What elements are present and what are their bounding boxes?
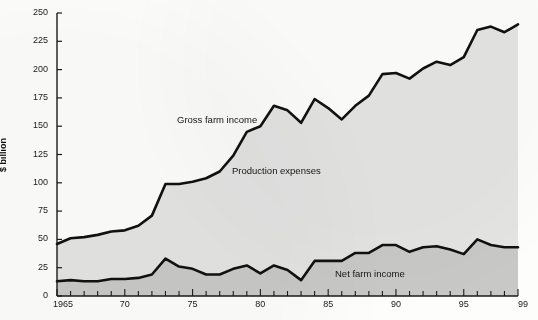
y-tick-label: 25: [0, 262, 48, 272]
y-tick-label: 0: [0, 290, 48, 300]
y-tick-label: 150: [0, 120, 48, 130]
y-tick-label: 200: [0, 64, 48, 74]
y-tick-label: 250: [0, 7, 48, 17]
y-tick-label: 175: [0, 92, 48, 102]
y-tick-label: 75: [0, 205, 48, 215]
y-tick-label: 125: [0, 149, 48, 159]
x-tick-label: 85: [308, 299, 348, 309]
annotation-expenses: Production expenses: [232, 165, 321, 176]
x-tick-label: 75: [173, 299, 213, 309]
farm-income-chart: $ billion 0255075100125150175200225250 1…: [0, 0, 538, 320]
x-tick-label: 70: [105, 299, 145, 309]
y-tick-label: 100: [0, 177, 48, 187]
x-tick-label: 80: [240, 299, 280, 309]
y-tick-label: 50: [0, 233, 48, 243]
chart-plot-area: [0, 0, 538, 320]
x-tick-label: 99: [488, 299, 528, 309]
y-tick-label: 225: [0, 35, 48, 45]
annotation-net: Net farm income: [335, 268, 405, 279]
x-tick-label: 90: [376, 299, 416, 309]
x-tick-label: 1965: [53, 299, 93, 309]
x-tick-label: 95: [444, 299, 484, 309]
annotation-gross: Gross farm income: [177, 114, 257, 125]
